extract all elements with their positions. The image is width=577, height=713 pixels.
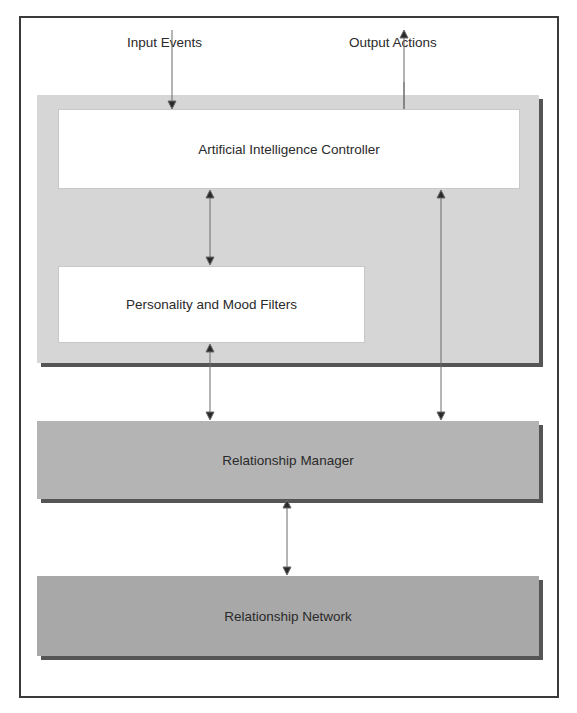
ai-manager-down-head-icon bbox=[437, 412, 445, 420]
connector-arrows bbox=[0, 0, 577, 713]
personality-manager-down-head-icon bbox=[206, 412, 214, 420]
output-arrow-head-icon bbox=[400, 30, 408, 38]
personality-manager-up-head-icon bbox=[206, 344, 214, 352]
ai-manager-up-head-icon bbox=[437, 190, 445, 198]
manager-network-up-head-icon bbox=[283, 500, 291, 508]
ai-personality-down-head-icon bbox=[206, 257, 214, 265]
input-arrow-head-icon bbox=[168, 101, 176, 109]
ai-personality-up-head-icon bbox=[206, 190, 214, 198]
manager-network-down-head-icon bbox=[283, 567, 291, 575]
